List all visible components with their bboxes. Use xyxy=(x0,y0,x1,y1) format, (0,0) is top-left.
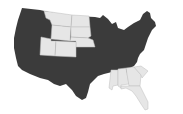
state-north-dakota xyxy=(71,15,90,27)
us-map xyxy=(0,0,183,114)
state-colorado xyxy=(55,41,76,57)
state-wyoming xyxy=(51,25,71,41)
light-states-southeast xyxy=(109,66,148,110)
state-mississippi xyxy=(109,70,118,90)
state-south-dakota xyxy=(71,27,91,38)
state-florida xyxy=(121,86,148,110)
